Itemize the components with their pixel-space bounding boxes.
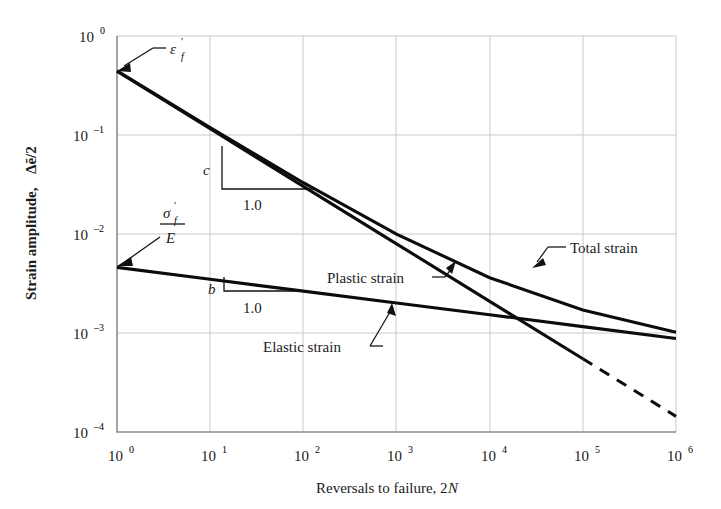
x-tick-mantissa: 10 [481,448,496,464]
strain-life-curve-chart: c 1.0 b 1.0 ε ′ f σ ′ f [0,0,721,509]
y-tick-exponent: 0 [100,25,105,36]
x-tick-exponent: 1 [222,444,227,455]
y-axis-title-symbol: Δẽ/2 [23,146,39,174]
slope-c-label: c [203,162,210,178]
x-tick-mantissa: 10 [201,448,216,464]
sigma-symbol: σ [163,205,171,221]
epsilon-prime-mark: ′ [181,36,183,47]
x-tick-mantissa: 10 [294,448,309,464]
sigma-prime-mark: ′ [174,200,176,211]
y-tick-mantissa: 10 [73,128,88,144]
x-tick-exponent: 6 [688,444,693,455]
y-tick-exponent: –1 [93,124,104,135]
y-tick-exponent: –4 [93,421,104,432]
figure-container: c 1.0 b 1.0 ε ′ f σ ′ f [0,0,721,509]
total-strain-label: Total strain [570,240,638,256]
x-tick-exponent: 2 [315,444,320,455]
x-tick-mantissa: 10 [574,448,589,464]
x-tick-mantissa: 10 [667,448,682,464]
x-tick-mantissa: 10 [108,448,123,464]
slope-b-label: b [208,281,216,297]
slope-c-base-label: 1.0 [243,197,262,213]
y-tick-mantissa: 10 [79,29,94,45]
modulus-symbol: E [165,230,175,246]
plastic-strain-label: Plastic strain [327,270,405,286]
y-axis-title: Strain amplitude, Δẽ/2 [23,146,39,300]
x-axis-title: Reversals to failure, 2 N [316,480,459,496]
y-tick-exponent: –2 [93,223,104,234]
y-tick-mantissa: 10 [73,227,88,243]
y-tick-exponent: –3 [93,322,104,333]
x-tick-exponent: 3 [408,444,413,455]
x-tick-exponent: 4 [502,444,507,455]
epsilon-symbol: ε [170,41,176,57]
x-tick-mantissa: 10 [387,448,402,464]
y-tick-mantissa: 10 [73,326,88,342]
x-axis-title-variable: N [447,480,459,496]
x-axis-title-text: Reversals to failure, 2 [316,480,448,496]
x-tick-exponent: 5 [595,444,600,455]
slope-b-base-label: 1.0 [243,300,262,316]
y-axis-title-text: Strain amplitude, [23,187,39,300]
x-tick-exponent: 0 [129,444,134,455]
y-tick-mantissa: 10 [73,425,88,441]
elastic-strain-label: Elastic strain [263,339,341,355]
